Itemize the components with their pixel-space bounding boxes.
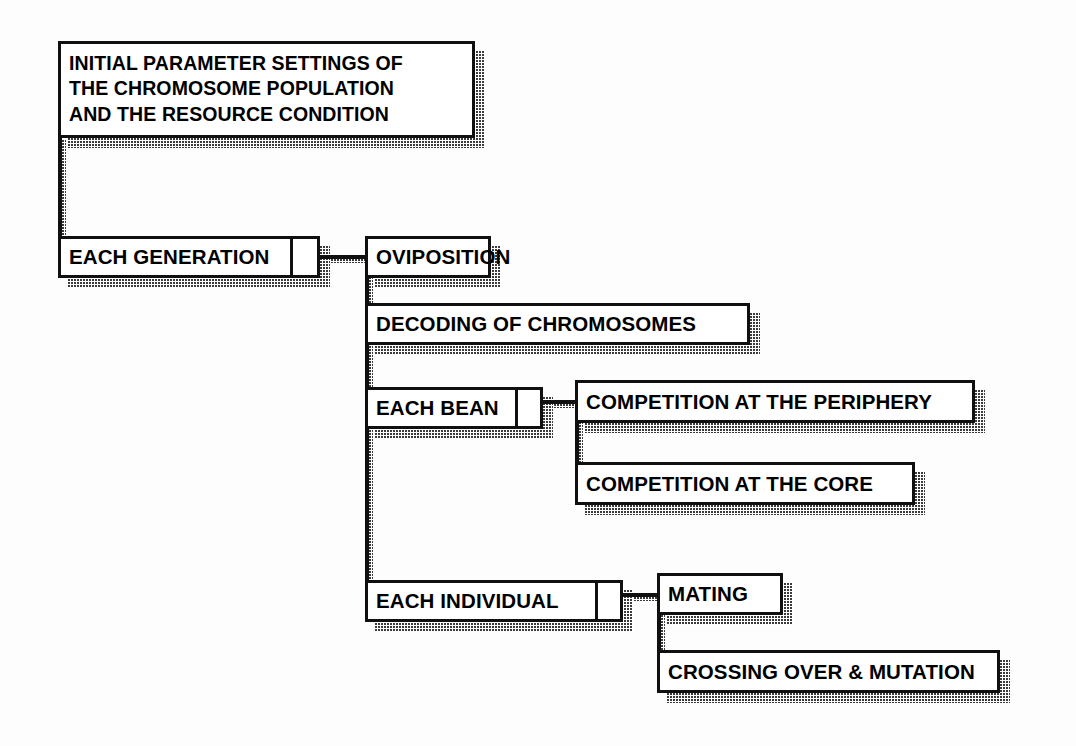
flowchart-canvas: INITIAL PARAMETER SETTINGS OF THE CHROMO… [0,0,1076,746]
loop-divider-each-generation [290,236,293,278]
node-initial-parameters[interactable]: INITIAL PARAMETER SETTINGS OF THE CHROMO… [58,41,475,138]
node-label-each-generation: EACH GENERATION [61,245,277,269]
connector-shadow-initial-to-each-generation [62,140,66,242]
node-crossing-over-and-mutation[interactable]: CROSSING OVER & MUTATION [657,650,1000,693]
node-label-decoding-of-chromosomes: DECODING OF CHROMOSOMES [368,312,704,336]
node-label-each-bean: EACH BEAN [368,396,507,420]
connector-each-generation-to-oviposition [318,255,368,259]
node-label-crossing-over-and-mutation: CROSSING OVER & MUTATION [660,660,983,684]
node-label-competition-at-the-core: COMPETITION AT THE CORE [578,472,881,496]
connector-initial-to-each-generation [58,136,62,238]
node-competition-at-the-core[interactable]: COMPETITION AT THE CORE [575,462,915,505]
node-each-generation[interactable]: EACH GENERATION [58,236,320,278]
node-each-individual[interactable]: EACH INDIVIDUAL [365,580,623,622]
node-label-initial-parameters: INITIAL PARAMETER SETTINGS OF THE CHROMO… [61,51,411,127]
loop-divider-each-individual [595,580,598,622]
node-label-oviposition: OVIPOSITION [368,245,518,269]
node-competition-at-the-periphery[interactable]: COMPETITION AT THE PERIPHERY [575,380,975,423]
connector-each-bean-to-competition [541,400,577,404]
node-mating[interactable]: MATING [657,573,783,615]
node-label-competition-at-the-periphery: COMPETITION AT THE PERIPHERY [578,390,940,414]
node-label-each-individual: EACH INDIVIDUAL [368,589,567,613]
connector-each-individual-to-mating [621,593,659,597]
node-label-mating: MATING [660,582,756,606]
loop-divider-each-bean [515,387,518,429]
node-decoding-of-chromosomes[interactable]: DECODING OF CHROMOSOMES [365,303,750,345]
node-oviposition[interactable]: OVIPOSITION [365,236,491,278]
